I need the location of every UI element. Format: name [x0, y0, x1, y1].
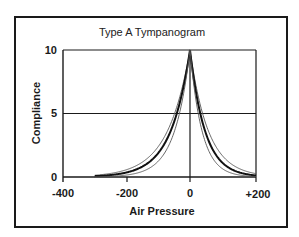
x-tick-0: 0: [187, 187, 193, 199]
curve-upper-limit: [95, 50, 256, 175]
y-tick-5: 5: [51, 107, 57, 119]
x-axis-label: Air Pressure: [129, 205, 194, 217]
x-tick-m400: -400: [52, 187, 74, 199]
y-tick-10: 10: [45, 44, 57, 56]
y-axis-label: Compliance: [30, 82, 42, 144]
x-tick-p200: +200: [246, 188, 271, 200]
tympanogram-chart: Type A Tympanogram 10 5 0 -400 -200 0 +2…: [0, 0, 299, 237]
plot-grid: [63, 50, 256, 182]
chart-title: Type A Tympanogram: [99, 26, 205, 38]
x-tick-m200: -200: [116, 187, 138, 199]
y-tick-0: 0: [51, 171, 57, 183]
